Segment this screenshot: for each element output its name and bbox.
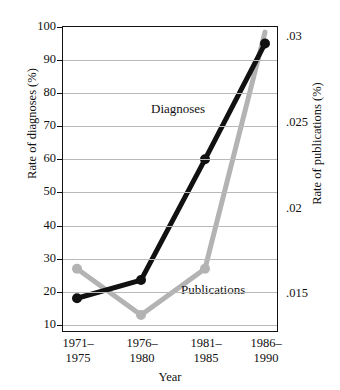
data-point: [136, 310, 146, 320]
left-axis-tick-label: 50: [44, 184, 57, 199]
left-axis-tick-label: 80: [44, 85, 57, 100]
data-point: [136, 275, 146, 285]
gridline: [63, 192, 277, 193]
chart-figure: 100908070605040302010 Rate of diagnoses …: [0, 0, 340, 390]
left-axis-tick: [57, 126, 63, 127]
data-point: [200, 264, 210, 274]
x-axis-tick-label: 1981–1985: [190, 336, 221, 366]
left-axis-tick-label: 90: [44, 52, 57, 67]
gridline: [63, 93, 277, 94]
left-axis-tick-label: 60: [44, 151, 57, 166]
gridline: [63, 60, 277, 61]
series-annotation-diagnoses: Diagnoses: [151, 101, 205, 117]
data-point: [72, 264, 82, 274]
series-annotation-publications: Publications: [181, 282, 245, 298]
left-axis-tick: [57, 93, 63, 94]
left-axis-tick-label: 30: [44, 250, 57, 265]
right-axis-tick-label: .015: [286, 286, 308, 301]
right-axis-tick-label: .03: [286, 29, 302, 44]
series-layer: [63, 27, 279, 333]
left-axis-tick-label: 20: [44, 283, 57, 298]
gridline: [63, 292, 277, 293]
left-axis-tick: [57, 325, 63, 326]
right-axis-tick-label: .025: [286, 115, 308, 130]
left-axis-tick: [57, 159, 63, 160]
left-axis-tick: [57, 60, 63, 61]
gridline: [63, 226, 277, 227]
x-axis-tick-label: 1976–1980: [126, 336, 157, 366]
left-axis-tick: [57, 226, 63, 227]
x-axis-tick-labels: 1971–19751976–19801981–19851986–1990: [62, 336, 278, 370]
x-axis-tick-label: 1971–1975: [62, 336, 93, 366]
left-axis-tick: [57, 259, 63, 260]
left-axis-tick-label: 70: [44, 118, 57, 133]
right-axis-tick-label: .02: [286, 200, 302, 215]
gridline: [63, 126, 277, 127]
series-line-publications: [77, 32, 265, 315]
left-axis-tick: [57, 27, 63, 28]
data-point: [72, 293, 82, 303]
left-axis-tick: [57, 192, 63, 193]
data-point: [260, 39, 270, 49]
gridline: [63, 159, 277, 160]
right-axis-title: Rate of publications (%): [310, 59, 325, 229]
gridline: [63, 325, 277, 326]
x-axis-tick-label: 1986–1990: [250, 336, 281, 366]
left-axis-tick-label: 40: [44, 217, 57, 232]
x-axis-title: Year: [62, 370, 278, 385]
left-axis-title: Rate of diagnoses (%): [25, 44, 40, 204]
plot-area: Diagnoses Publications: [62, 26, 278, 332]
left-axis-tick-label: 100: [37, 19, 56, 34]
series-line-diagnoses: [77, 44, 265, 299]
left-axis-tick-label: 10: [44, 316, 57, 331]
left-axis-tick: [57, 292, 63, 293]
gridline: [63, 259, 277, 260]
